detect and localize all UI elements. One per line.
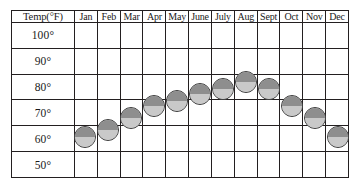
cell-90-dec [326, 48, 349, 74]
header-row: Temp(°F) Jan Feb Mar Apr May June July A… [12, 11, 349, 23]
cell-60-nov [303, 126, 326, 152]
cell-70-jan [75, 100, 98, 126]
cell-70-apr [143, 100, 166, 126]
cell-70-feb [97, 100, 120, 126]
cell-80-june [189, 74, 212, 100]
cell-50-mar [120, 152, 143, 178]
cell-100-oct [280, 23, 303, 49]
cell-100-june [189, 23, 212, 49]
table-row: 70° [12, 100, 349, 126]
cell-100-nov [303, 23, 326, 49]
row-label-60: 60° [12, 126, 75, 152]
row-label-50: 50° [12, 152, 75, 178]
cell-80-mar [120, 74, 143, 100]
cell-70-oct [280, 100, 303, 126]
cell-60-feb [97, 126, 120, 152]
row-label-90: 90° [12, 48, 75, 74]
month-header-june: June [189, 11, 212, 23]
cell-100-may [166, 23, 189, 49]
month-header-july: July [211, 11, 234, 23]
table-header: Temp(°F) Jan Feb Mar Apr May June July A… [12, 11, 349, 23]
cell-50-oct [280, 152, 303, 178]
cell-80-aug [234, 74, 257, 100]
cell-70-mar [120, 100, 143, 126]
month-header-aug: Aug [234, 11, 257, 23]
cell-80-apr [143, 74, 166, 100]
month-header-may: May [166, 11, 189, 23]
cell-80-jan [75, 74, 98, 100]
month-header-dec: Dec [326, 11, 349, 23]
cell-100-aug [234, 23, 257, 49]
table-row: 90° [12, 48, 349, 74]
cell-60-july [211, 126, 234, 152]
cell-80-feb [97, 74, 120, 100]
cell-50-jan [75, 152, 98, 178]
temp-axis-header: Temp(°F) [12, 11, 75, 23]
cell-70-june [189, 100, 212, 126]
cell-70-nov [303, 100, 326, 126]
cell-80-july [211, 74, 234, 100]
cell-70-may [166, 100, 189, 126]
table-row: 60° [12, 126, 349, 152]
cell-90-feb [97, 48, 120, 74]
month-header-jan: Jan [75, 11, 98, 23]
cell-50-july [211, 152, 234, 178]
cell-80-oct [280, 74, 303, 100]
cell-100-apr [143, 23, 166, 49]
cell-60-apr [143, 126, 166, 152]
cell-80-sept [257, 74, 280, 100]
month-header-sept: Sept [257, 11, 280, 23]
cell-80-nov [303, 74, 326, 100]
cell-50-feb [97, 152, 120, 178]
cell-90-may [166, 48, 189, 74]
cell-90-july [211, 48, 234, 74]
cell-50-apr [143, 152, 166, 178]
cell-90-sept [257, 48, 280, 74]
cell-90-aug [234, 48, 257, 74]
table-row: 80° [12, 74, 349, 100]
table-body: 100° 90° [12, 23, 349, 178]
cell-90-oct [280, 48, 303, 74]
cell-90-mar [120, 48, 143, 74]
cell-100-sept [257, 23, 280, 49]
cell-90-june [189, 48, 212, 74]
cell-100-feb [97, 23, 120, 49]
cell-60-oct [280, 126, 303, 152]
cell-50-dec [326, 152, 349, 178]
cell-70-sept [257, 100, 280, 126]
cell-60-may [166, 126, 189, 152]
month-header-oct: Oct [280, 11, 303, 23]
month-header-mar: Mar [120, 11, 143, 23]
month-header-nov: Nov [303, 11, 326, 23]
table-row: 100° [12, 23, 349, 49]
cell-80-may [166, 74, 189, 100]
cell-100-july [211, 23, 234, 49]
temperature-chart: Temp(°F) Jan Feb Mar Apr May June July A… [11, 10, 349, 178]
month-header-feb: Feb [97, 11, 120, 23]
cell-60-sept [257, 126, 280, 152]
cell-80-dec [326, 74, 349, 100]
cell-100-mar [120, 23, 143, 49]
row-label-70: 70° [12, 100, 75, 126]
cell-50-sept [257, 152, 280, 178]
cell-100-dec [326, 23, 349, 49]
cell-70-july [211, 100, 234, 126]
cell-50-nov [303, 152, 326, 178]
cell-50-aug [234, 152, 257, 178]
cell-90-jan [75, 48, 98, 74]
month-header-apr: Apr [143, 11, 166, 23]
cell-60-dec [326, 126, 349, 152]
row-label-100: 100° [12, 23, 75, 49]
cell-60-mar [120, 126, 143, 152]
cell-50-may [166, 152, 189, 178]
cell-100-jan [75, 23, 98, 49]
cell-60-aug [234, 126, 257, 152]
cell-50-june [189, 152, 212, 178]
table-row: 50° [12, 152, 349, 178]
temperature-grid-table: Temp(°F) Jan Feb Mar Apr May June July A… [11, 10, 349, 178]
cell-60-june [189, 126, 212, 152]
row-label-80: 80° [12, 74, 75, 100]
cell-90-nov [303, 48, 326, 74]
cell-90-apr [143, 48, 166, 74]
cell-70-aug [234, 100, 257, 126]
